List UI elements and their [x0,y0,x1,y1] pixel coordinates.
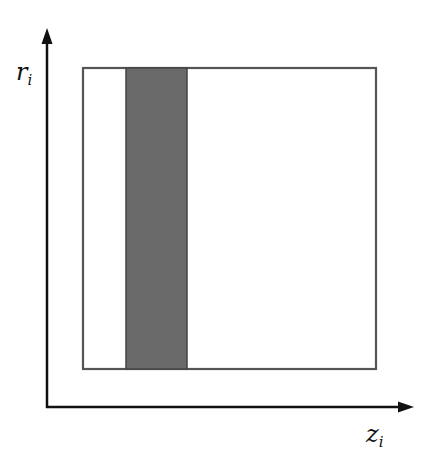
x-axis-label-sub: i [379,433,384,451]
x-axis-arrowhead-icon [398,402,414,413]
x-axis-label: zi [366,422,383,450]
diagram-canvas [0,0,435,462]
y-axis-label-sub: i [27,71,32,89]
x-axis-label-var: z [366,420,379,448]
y-axis-label-var: r [16,58,27,86]
shaded-band [126,68,187,369]
y-axis-label: ri [16,60,32,88]
y-axis-arrowhead-icon [42,28,53,44]
